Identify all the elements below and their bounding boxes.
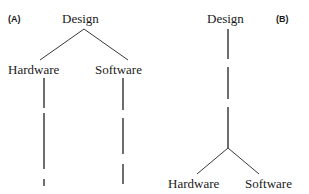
diagram-edges [0,0,309,194]
edge-a-design-hardware [40,29,84,60]
edge-a-design-software [84,29,128,60]
diagram-canvas: (A) Design Hardware Software (B) Design … [0,0,309,194]
edge-b-fork-hardware [197,148,228,174]
edge-b-fork-software [228,148,259,174]
